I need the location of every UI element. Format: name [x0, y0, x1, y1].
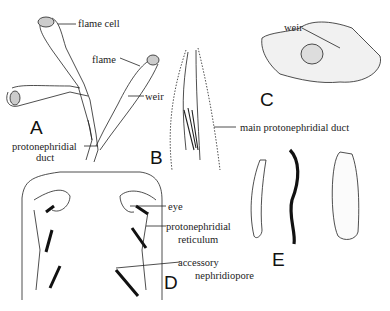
panel-letter-b: B — [150, 148, 163, 167]
panel-d-drawing — [22, 172, 180, 300]
panel-letter-e: E — [272, 250, 285, 269]
label-flame-cell: flame cell — [78, 18, 120, 29]
panel-c-drawing — [262, 22, 381, 83]
label-accessory-line1: accessory — [178, 257, 219, 268]
label-weir-b: weir — [145, 91, 164, 102]
label-accessory-line2: nephridiopore — [195, 270, 254, 281]
label-weir-c: weir — [284, 22, 303, 33]
label-reticulum-line1: protonephridial — [166, 221, 231, 232]
label-reticulum-line2: reticulum — [178, 234, 218, 245]
panel-b-drawing — [170, 48, 236, 170]
label-main-duct: main protonephridial duct — [240, 122, 349, 133]
label-eye: eye — [168, 201, 183, 212]
label-duct-line1: protonephridial — [12, 141, 77, 152]
label-flame: flame — [92, 54, 116, 65]
panel-letter-d: D — [164, 273, 178, 292]
label-duct-line2: duct — [36, 152, 54, 163]
panel-letter-c: C — [260, 90, 274, 109]
panel-e-drawing — [251, 150, 359, 244]
protonephridia-figure: flame cell flame weir protonephridial du… — [0, 0, 390, 311]
panel-letter-a: A — [30, 118, 43, 137]
